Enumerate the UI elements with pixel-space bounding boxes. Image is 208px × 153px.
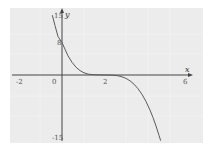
tick-label-y-15: 15 — [54, 12, 63, 20]
tick-label-x-6: 6 — [183, 78, 188, 86]
x-axis-label: x — [185, 65, 190, 74]
function-plot: -2 0 2 6 15 8 -15 x y — [0, 0, 208, 153]
tick-label-x-0: 0 — [52, 78, 56, 86]
tick-label-y-neg15: -15 — [52, 134, 63, 142]
tick-label-x-2: 2 — [103, 78, 107, 86]
y-axis-label: y — [64, 10, 70, 19]
tick-label-y-8: 8 — [57, 39, 61, 47]
tick-label-x-neg2: -2 — [16, 78, 23, 86]
